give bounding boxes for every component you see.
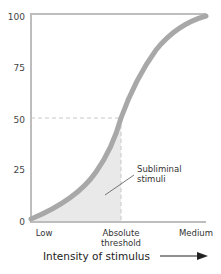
xtick-threshold-line2: threshold	[101, 238, 141, 248]
xtick-medium: Medium	[179, 228, 213, 238]
xtick-threshold-line1: Absolute	[101, 228, 141, 238]
subliminal-region	[31, 118, 121, 221]
x-axis-label: Intensity of stimulus	[43, 250, 150, 262]
ytick-50: 50	[14, 115, 25, 125]
ytick-0: 0	[19, 217, 25, 227]
chart: 100 75 50 25 0 Low Absolute threshold Me…	[0, 0, 221, 274]
annotation-line2: stimuli	[137, 174, 182, 184]
ytick-100: 100	[8, 12, 25, 22]
ytick-25: 25	[14, 165, 25, 175]
arrow-right-icon	[197, 252, 208, 260]
xtick-threshold: Absolute threshold	[101, 228, 141, 248]
subliminal-annotation: Subliminal stimuli	[137, 164, 182, 184]
ytick-75: 75	[14, 63, 25, 73]
annotation-line1: Subliminal	[137, 164, 182, 174]
xtick-low: Low	[36, 228, 53, 238]
